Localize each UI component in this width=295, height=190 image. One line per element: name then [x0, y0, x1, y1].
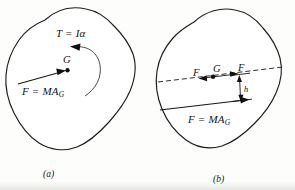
force-label-right-b: F	[238, 63, 244, 74]
center-of-mass-dot-a	[65, 68, 69, 72]
center-of-mass-label-b: G	[213, 64, 221, 75]
scan-edge-artifact	[0, 181, 295, 190]
caption-a: (a)	[43, 170, 54, 180]
force-label-left-b: F	[193, 68, 199, 79]
force-label-b-subscript: G	[225, 118, 231, 127]
rigid-body-outline-b	[156, 9, 281, 148]
panel-b-graphics	[150, 0, 295, 165]
torque-label-a: T = Iα	[56, 28, 85, 39]
force-label-b: F = MAG	[188, 114, 230, 126]
force-label-a: F = MAG	[22, 86, 64, 98]
force-label-a-main: F = MA	[22, 85, 59, 97]
center-of-mass-dot-b	[211, 75, 215, 79]
force-label-b-main: F = MA	[188, 113, 225, 125]
moment-arm-label-b: h	[244, 85, 248, 94]
force-label-a-subscript: G	[59, 90, 65, 99]
caption-b: (b)	[213, 175, 224, 185]
panel-a-graphics	[0, 0, 150, 165]
center-of-mass-label-a: G	[63, 55, 71, 66]
figure-container: T = Iα G F = MAG (a) F G F h F = MAG	[0, 0, 295, 190]
